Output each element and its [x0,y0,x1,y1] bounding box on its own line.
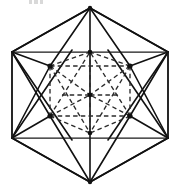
inner-top-node [88,50,93,55]
inner-upper-right-node [127,63,132,68]
inner-bottom-node [88,131,93,136]
top-edge-artifact [29,0,43,4]
figure-root [0,0,181,190]
outer-bottom-vertex [88,180,92,184]
inner-upper-left-node [47,63,52,68]
inner-lower-right-node [127,113,132,118]
inner-lower-left-node [47,113,52,118]
polyhedron-figure-svg [0,0,181,190]
inner-center-node [88,93,93,98]
outer-top-vertex [88,6,92,10]
